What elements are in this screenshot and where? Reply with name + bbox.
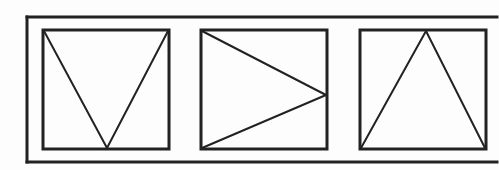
outer-frame (27, 17, 497, 162)
panel-3 (360, 30, 486, 149)
panel-1 (43, 30, 169, 149)
square-box (360, 30, 486, 149)
triangle-side-2 (426, 31, 485, 148)
triangle-sequence-diagram (0, 0, 499, 170)
panel-2 (201, 30, 327, 149)
panels (43, 30, 486, 149)
triangle-side-1 (44, 31, 107, 148)
triangle-side-2 (202, 95, 326, 148)
triangle-side-2 (107, 31, 168, 148)
diagram-canvas (0, 0, 499, 170)
square-box (201, 30, 327, 149)
triangle-side-1 (202, 31, 326, 95)
square-box (43, 30, 169, 149)
triangle-side-1 (361, 31, 426, 148)
